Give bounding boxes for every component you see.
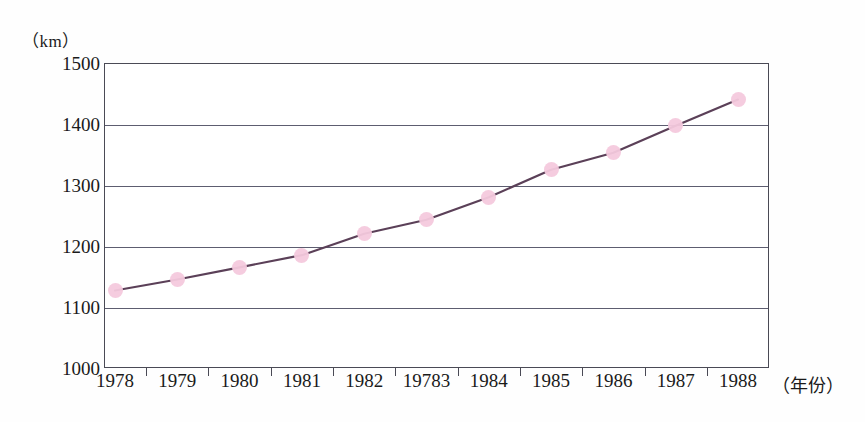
- x-axis-tick-label: 1988: [719, 371, 757, 390]
- x-axis-tick-mark: [645, 368, 646, 376]
- x-axis-tick-mark: [395, 368, 396, 376]
- x-axis-tick-mark: [208, 368, 209, 376]
- data-point-marker: [544, 162, 559, 177]
- y-axis-tick-labels: 100011001200130014001500: [0, 0, 100, 422]
- y-axis-tick-label: 1300: [4, 176, 100, 195]
- gridline: [105, 308, 768, 309]
- data-point-marker: [731, 92, 746, 107]
- x-axis-tick-mark: [333, 368, 334, 376]
- x-axis-tick-label: 1987: [657, 371, 695, 390]
- x-axis-tick-mark: [146, 368, 147, 376]
- data-point-marker: [232, 260, 247, 275]
- x-axis-tick-mark: [707, 368, 708, 376]
- gridline: [105, 186, 768, 187]
- x-axis-tick-mark: [271, 368, 272, 376]
- x-axis-tick-label: 1984: [470, 371, 508, 390]
- gridline: [105, 247, 768, 248]
- x-axis-tick-label: 1986: [594, 371, 632, 390]
- y-axis-tick-label: 1400: [4, 115, 100, 134]
- x-axis-tick-mark: [520, 368, 521, 376]
- x-axis-unit-label: （年份）: [772, 371, 844, 397]
- x-axis-tick-label: 1982: [345, 371, 383, 390]
- y-axis-tick-label: 1200: [4, 237, 100, 256]
- x-axis-tick-mark: [582, 368, 583, 376]
- y-axis-tick-label: 1000: [4, 359, 100, 378]
- data-point-marker: [108, 283, 123, 298]
- x-axis-tick-label: 1981: [283, 371, 321, 390]
- plot-area: [104, 63, 769, 368]
- data-point-marker: [357, 226, 372, 241]
- chart-figure: （km） 100011001200130014001500 1978197919…: [0, 0, 865, 422]
- x-axis-tick-label: 1985: [532, 371, 570, 390]
- data-point-marker: [606, 145, 621, 160]
- x-axis-tick-label: 19783: [403, 371, 451, 390]
- x-axis-tick-label: 1979: [158, 371, 196, 390]
- data-point-marker: [170, 272, 185, 287]
- x-axis-tick-label: 1980: [221, 371, 259, 390]
- x-axis-tick-mark: [458, 368, 459, 376]
- data-point-marker: [294, 248, 309, 263]
- y-axis-tick-label: 1500: [4, 54, 100, 73]
- y-axis-tick-label: 1100: [4, 298, 100, 317]
- x-axis-tick-label: 1978: [96, 371, 134, 390]
- data-point-marker: [481, 190, 496, 205]
